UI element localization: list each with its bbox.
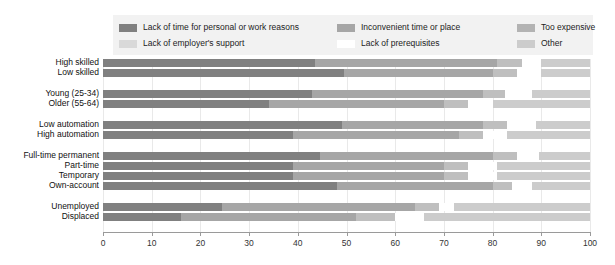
bar-row	[103, 213, 590, 221]
bar-segment	[483, 90, 505, 98]
x-axis-tick	[444, 232, 445, 236]
bar-segment	[293, 162, 444, 170]
bar-segment	[444, 100, 468, 108]
legend-swatch-icon	[517, 40, 535, 48]
bar-segment	[424, 213, 590, 221]
chart-legend: Lack of time for personal or work reason…	[113, 15, 593, 55]
bar-segment	[493, 69, 517, 77]
bar-segment	[342, 121, 483, 129]
legend-item-label: Lack of time for personal or work reason…	[143, 21, 299, 34]
x-axis-tick	[347, 232, 348, 236]
y-axis-category-label: Part-time	[0, 161, 99, 170]
bar-segment	[493, 182, 512, 190]
bar-segment	[103, 131, 293, 139]
x-axis-tick-label: 30	[244, 238, 253, 248]
bar-segment	[103, 162, 293, 170]
y-axis-category-label: High skilled	[0, 58, 99, 67]
bar-segment	[103, 69, 344, 77]
legend-item-label: Other	[541, 37, 562, 50]
x-axis-tick-label: 50	[342, 238, 351, 248]
bar-segment	[315, 59, 498, 67]
bar-segment	[103, 59, 315, 67]
x-axis-tick-label: 70	[439, 238, 448, 248]
bar-row	[103, 152, 590, 160]
bar-segment	[103, 182, 337, 190]
bar-segment	[439, 203, 454, 211]
bar-segment	[541, 69, 590, 77]
legend-swatch-icon	[517, 24, 535, 32]
bar-row	[103, 69, 590, 77]
bar-segment	[532, 182, 590, 190]
bar-segment	[507, 131, 590, 139]
y-axis-category-labels: High skilledLow skilledYoung (25-34)Olde…	[0, 59, 99, 232]
y-axis-category-label: Low skilled	[0, 68, 99, 77]
bar-segment	[103, 203, 222, 211]
x-axis-tick-label: 60	[390, 238, 399, 248]
bar-segment	[103, 172, 293, 180]
y-axis-category-label: Low automation	[0, 120, 99, 129]
bar-row	[103, 121, 590, 129]
x-axis-tick-label: 20	[196, 238, 205, 248]
bar-segment	[103, 121, 342, 129]
bar-segment	[444, 172, 468, 180]
y-axis-category-label: Temporary	[0, 171, 99, 180]
legend-swatch-icon	[337, 40, 355, 48]
bar-segment	[320, 152, 493, 160]
bar-row	[103, 162, 590, 170]
bar-row	[103, 59, 590, 67]
x-axis-tick	[152, 232, 153, 236]
y-axis-category-label: Displaced	[0, 212, 99, 221]
bar-segment	[103, 213, 181, 221]
bar-segment	[103, 90, 312, 98]
legend-item-too-expensive: Too expensive	[517, 20, 595, 35]
bar-segment	[293, 172, 444, 180]
x-axis-tick	[541, 232, 542, 236]
legend-item-other: Other	[517, 36, 595, 51]
legend-item-lack-of-prerequisites: Lack of prerequisites	[337, 36, 517, 51]
legend-item-label: Lack of employer's support	[143, 37, 244, 50]
y-axis-category-label: Unemployed	[0, 202, 99, 211]
bar-segment	[459, 131, 483, 139]
x-axis-tick	[200, 232, 201, 236]
legend-swatch-icon	[337, 24, 355, 32]
legend-item-lack-of-time: Lack of time for personal or work reason…	[119, 20, 337, 35]
x-axis-tick	[395, 232, 396, 236]
bar-segment	[337, 182, 493, 190]
x-axis-tick	[590, 232, 591, 236]
bar-segment	[483, 131, 507, 139]
y-axis-category-label: Own-account	[0, 181, 99, 190]
bar-segment	[517, 152, 539, 160]
legend-swatch-icon	[119, 40, 137, 48]
legend-item-label: Inconvenient time or place	[361, 21, 460, 34]
y-axis-category-label: Young (25-34)	[0, 89, 99, 98]
bar-segment	[517, 69, 541, 77]
bar-segment	[468, 172, 497, 180]
y-axis-category-label: High automation	[0, 130, 99, 139]
bar-segment	[344, 69, 493, 77]
bar-segment	[539, 152, 590, 160]
x-axis-tick-label: 90	[537, 238, 546, 248]
y-axis-category-label: Full-time permanent	[0, 151, 99, 160]
x-axis-tick-label: 0	[101, 238, 106, 248]
bar-row	[103, 182, 590, 190]
bar-segment	[103, 100, 269, 108]
bar-segment	[536, 121, 590, 129]
bar-segment	[415, 203, 439, 211]
bar-segment	[483, 121, 507, 129]
bar-segment	[269, 100, 444, 108]
bar-row	[103, 131, 590, 139]
x-axis-tick-label: 80	[488, 238, 497, 248]
bar-segment	[222, 203, 414, 211]
x-axis-tick	[298, 232, 299, 236]
bar-row	[103, 203, 590, 211]
bar-segment	[541, 59, 590, 67]
bar-row	[103, 172, 590, 180]
bar-segment	[505, 90, 532, 98]
bar-segment	[395, 213, 424, 221]
bar-segment	[103, 152, 320, 160]
x-axis-tick	[249, 232, 250, 236]
y-axis-category-label: Older (55-64)	[0, 99, 99, 108]
bar-row	[103, 100, 590, 108]
bar-segment	[181, 213, 356, 221]
bar-row	[103, 90, 590, 98]
